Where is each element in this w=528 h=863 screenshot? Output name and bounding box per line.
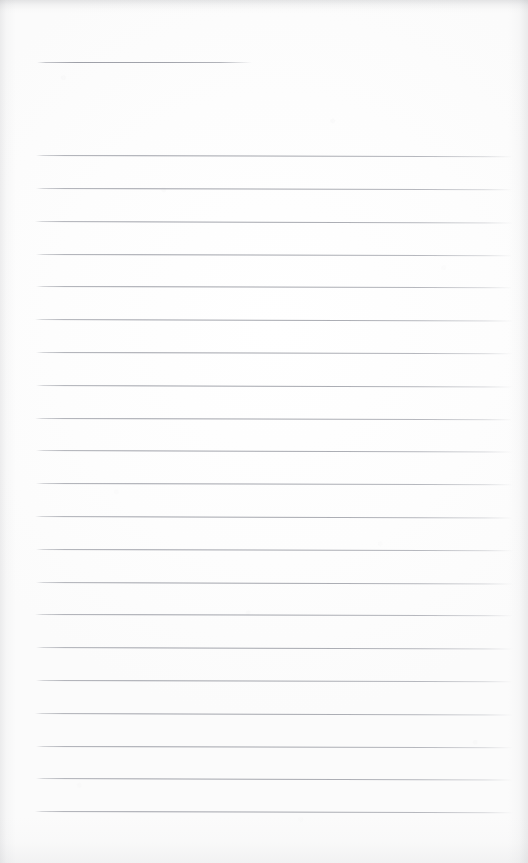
scanned-page [0,0,528,863]
ruled-line [36,549,513,551]
ruled-line [35,713,513,716]
ruled-line [35,319,513,322]
ruled-line [35,614,513,616]
ruled-line [35,811,513,813]
ruled-line [36,188,513,190]
ruled-line [35,418,513,420]
ruled-line [36,352,513,354]
scan-edge-top [0,0,528,14]
ruled-line [36,746,513,748]
scan-edge-right [508,0,528,863]
ruled-line [36,647,513,649]
paper-grain-texture [0,0,528,863]
ruled-line [35,516,513,518]
ruled-line [36,483,513,485]
scan-edge-bottom [0,817,528,863]
ruled-line [36,450,513,452]
header-rule [37,62,252,63]
ruled-line [36,385,513,387]
scan-edge-left [0,0,16,863]
ruled-line [36,582,513,584]
ruled-line [36,254,513,256]
ruled-line [36,155,513,157]
ruled-line [36,778,513,780]
ruled-line [36,680,513,682]
ruled-line [35,221,513,224]
ruled-line [36,286,513,288]
